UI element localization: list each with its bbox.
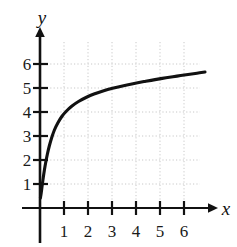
x-axis-arrowhead [208,203,218,213]
y-tick-label-6: 6 [23,55,32,74]
x-tick-label-2: 2 [84,222,93,241]
y-tick-label-4: 4 [23,103,32,122]
y-tick-label-2: 2 [23,151,32,170]
y-tick-labels: 1 2 3 4 5 6 [23,55,32,194]
figure-container: 1 2 3 4 5 6 1 2 3 4 5 6 y x [0,0,237,247]
logarithmic-function-graph: 1 2 3 4 5 6 1 2 3 4 5 6 y x [0,0,237,247]
x-axis [22,201,218,215]
y-axis [33,27,48,243]
logarithmic-curve [40,72,205,198]
x-tick-label-5: 5 [156,222,165,241]
x-tick-label-6: 6 [180,222,189,241]
y-axis-arrowhead [35,27,45,37]
x-tick-label-1: 1 [60,222,69,241]
x-tick-labels: 1 2 3 4 5 6 [60,222,189,241]
y-tick-label-5: 5 [23,79,32,98]
x-axis-variable-label: x [221,198,231,219]
grid-lines [40,42,200,208]
x-tick-label-4: 4 [132,222,141,241]
y-tick-label-1: 1 [23,175,32,194]
y-tick-label-3: 3 [23,127,32,146]
y-axis-variable-label: y [36,7,47,28]
x-tick-label-3: 3 [108,222,117,241]
